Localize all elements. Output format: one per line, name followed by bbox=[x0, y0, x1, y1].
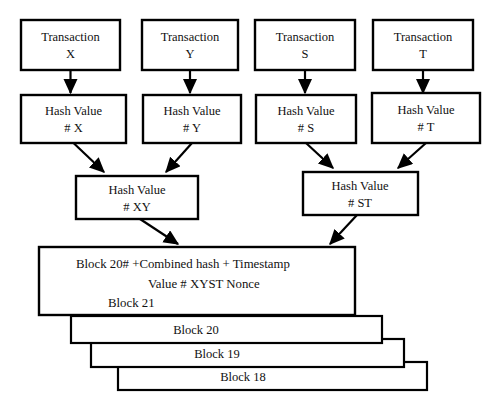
hash-s-line2: # S bbox=[298, 121, 314, 135]
transaction-t-line2: T bbox=[419, 47, 427, 61]
current-block-line3: Block 21 bbox=[108, 296, 155, 310]
hash-xy-line1: Hash Value bbox=[108, 183, 166, 197]
block-18-label: Block 18 bbox=[220, 370, 265, 384]
arrow-hash-st-to-block-21 bbox=[330, 215, 357, 244]
hash-x-line1: Hash Value bbox=[45, 104, 103, 118]
block-19-label: Block 19 bbox=[194, 347, 239, 361]
hash-x-line2: # X bbox=[64, 121, 82, 135]
current-block-line2: Value # XYST Nonce bbox=[148, 277, 260, 291]
transaction-t-line1: Transaction bbox=[394, 30, 453, 44]
transaction-box-x: Transaction X bbox=[21, 20, 120, 70]
transaction-s-line2: S bbox=[302, 47, 309, 61]
arrow-hash-x-to-hash-xy bbox=[74, 143, 105, 172]
transaction-box-y: Transaction Y bbox=[142, 20, 238, 70]
block-20-label: Block 20 bbox=[173, 323, 218, 337]
current-block-line1: Block 20# +Combined hash + Timestamp bbox=[76, 257, 290, 271]
transaction-y-line2: Y bbox=[185, 47, 194, 61]
hash-st-line2: # ST bbox=[348, 196, 372, 210]
blockchain-diagram: Transaction X Transaction Y Transaction … bbox=[0, 0, 502, 412]
transaction-box-t: Transaction T bbox=[373, 20, 473, 70]
hash-box-s: Hash Value # S bbox=[256, 95, 356, 143]
hash-y-line1: Hash Value bbox=[163, 104, 221, 118]
hash-xy-line2: # XY bbox=[123, 200, 150, 214]
transaction-x-line2: X bbox=[66, 47, 75, 61]
transaction-x-line1: Transaction bbox=[41, 30, 100, 44]
hash-box-xy: Hash Value # XY bbox=[76, 176, 198, 219]
hash-box-y: Hash Value # Y bbox=[143, 95, 241, 143]
hash-t-line1: Hash Value bbox=[397, 103, 455, 117]
transaction-s-line1: Transaction bbox=[276, 30, 335, 44]
hash-box-x: Hash Value # X bbox=[21, 95, 126, 143]
arrow-hash-s-to-hash-st bbox=[306, 143, 333, 168]
hash-s-line1: Hash Value bbox=[277, 104, 335, 118]
hash-box-t: Hash Value # T bbox=[372, 93, 480, 143]
arrow-hash-xy-to-block-21 bbox=[140, 219, 178, 244]
arrow-hash-y-to-hash-xy bbox=[166, 143, 192, 172]
transaction-box-s: Transaction S bbox=[255, 20, 355, 70]
hash-t-line2: # T bbox=[418, 120, 435, 134]
arrow-hash-t-to-hash-st bbox=[398, 143, 426, 168]
hash-box-st: Hash Value # ST bbox=[303, 172, 418, 215]
transaction-y-line1: Transaction bbox=[161, 30, 220, 44]
hash-st-line1: Hash Value bbox=[331, 179, 389, 193]
hash-y-line2: # Y bbox=[183, 121, 201, 135]
block-stack-item-20: Block 20 bbox=[71, 316, 382, 343]
current-block-21: Block 20# +Combined hash + Timestamp Val… bbox=[39, 247, 355, 315]
